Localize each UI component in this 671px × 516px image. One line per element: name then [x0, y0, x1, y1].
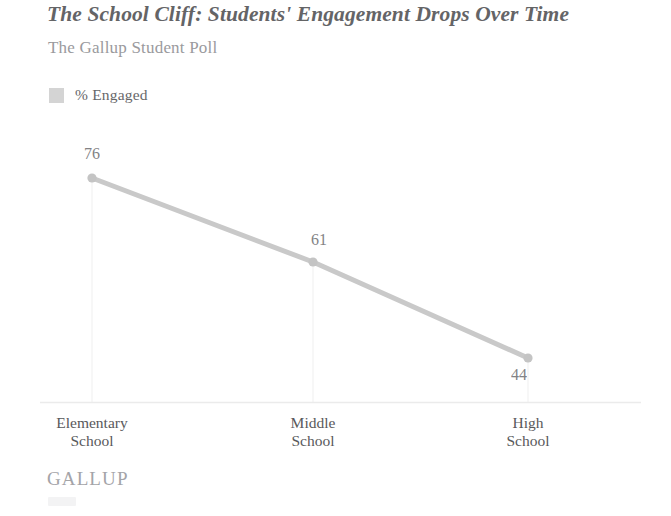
x-axis-label-high-line1: High [443, 414, 613, 432]
scan-artifact [48, 497, 76, 506]
x-axis-label-elementary-line1: Elementary [7, 414, 177, 432]
data-label-middle: 61 [311, 231, 327, 249]
legend-square-icon [49, 88, 64, 103]
chart-subtitle: The Gallup Student Poll [48, 38, 217, 58]
x-axis-label-high: High School [443, 414, 613, 451]
chart-figure: The School Cliff: Students' Engagement D… [0, 0, 671, 516]
x-axis-label-elementary: Elementary School [7, 414, 177, 451]
series-line-pct-engaged [92, 178, 528, 358]
x-axis-label-high-line2: School [443, 432, 613, 450]
page-title: The School Cliff: Students' Engagement D… [47, 2, 569, 27]
x-axis-label-middle-line1: Middle [228, 414, 398, 432]
data-label-elementary: 76 [84, 145, 100, 163]
chart-legend: % Engaged [49, 85, 148, 105]
legend-item-label: % Engaged [75, 86, 148, 104]
x-axis-label-middle-line2: School [228, 432, 398, 450]
series-markers [87, 173, 532, 362]
x-axis-label-elementary-line2: School [7, 432, 177, 450]
gridlines [92, 178, 528, 402]
x-axis-label-middle: Middle School [228, 414, 398, 451]
gallup-brand-logo: GALLUP [47, 468, 129, 490]
data-label-high: 44 [511, 366, 527, 384]
